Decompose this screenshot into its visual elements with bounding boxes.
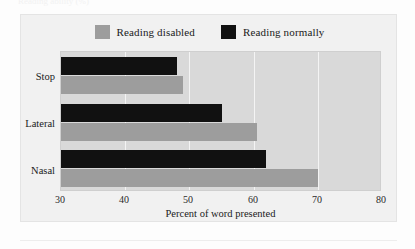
x-tick-label-50: 50 <box>183 194 193 205</box>
legend-label-reading-disabled: Reading disabled <box>117 26 195 38</box>
y-category-label-lateral: Lateral <box>19 118 55 129</box>
bar-stop-reading-disabled <box>61 76 183 94</box>
bar-lateral-reading-normally <box>61 104 222 122</box>
bar-nasal-reading-normally <box>61 150 266 168</box>
legend-swatch-gray-icon <box>95 25 110 39</box>
x-tick-label-60: 60 <box>248 194 258 205</box>
x-tick-label-30: 30 <box>55 194 65 205</box>
bar-nasal-reading-disabled <box>61 169 318 187</box>
x-tick-label-70: 70 <box>312 194 322 205</box>
bar-stop-reading-normally <box>61 57 177 75</box>
figure-bottom-rule <box>20 240 397 241</box>
x-axis-title: Percent of word presented <box>60 208 381 219</box>
legend-swatch-black-icon <box>221 25 236 39</box>
x-tick-label-40: 40 <box>119 194 129 205</box>
gridline-70 <box>318 52 319 190</box>
chart-panel: Reading disabled Reading normally Stop L… <box>20 14 397 222</box>
x-axis-tick-labels: 304050607080 <box>60 194 381 208</box>
bar-lateral-reading-disabled <box>61 123 257 141</box>
y-axis-category-labels: Stop Lateral Nasal <box>21 51 55 191</box>
clipped-caption-text: Reading ability (%) <box>18 0 318 8</box>
bar-chart-figure: Reading ability (%) Reading disabled Rea… <box>0 0 415 249</box>
plot-area <box>60 51 381 191</box>
legend-entry-reading-disabled: Reading disabled <box>95 25 195 39</box>
y-category-label-nasal: Nasal <box>19 165 55 176</box>
legend-label-reading-normally: Reading normally <box>243 26 325 38</box>
x-tick-label-80: 80 <box>376 194 386 205</box>
y-category-label-stop: Stop <box>19 71 55 82</box>
chart-legend: Reading disabled Reading normally <box>21 19 398 45</box>
legend-entry-reading-normally: Reading normally <box>221 25 325 39</box>
plot-wrapper: Stop Lateral Nasal 304050607080 Percent … <box>21 47 398 223</box>
